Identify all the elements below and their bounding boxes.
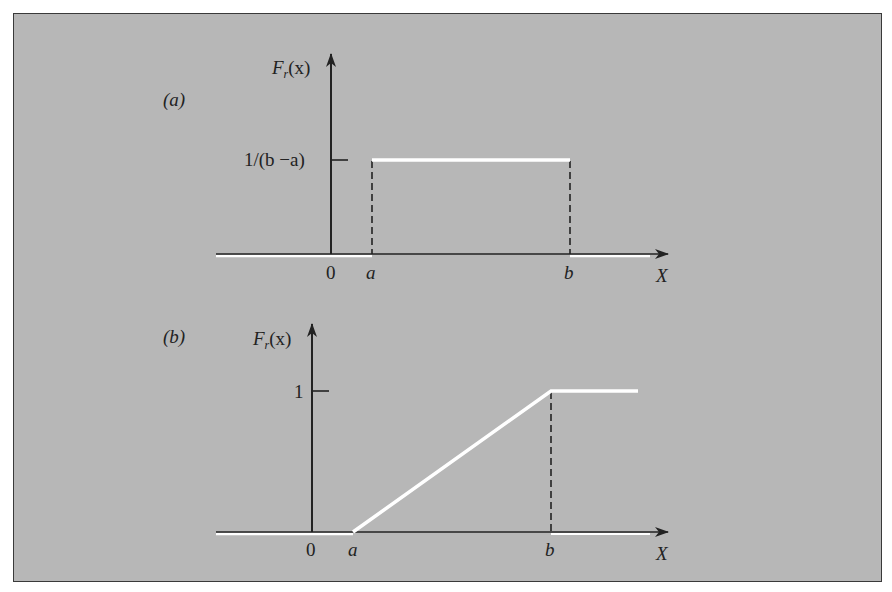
panel-label-b: (b) bbox=[163, 326, 185, 348]
cdf-curve-b bbox=[353, 391, 638, 532]
x-axis-label-b: X bbox=[655, 543, 669, 564]
panel-label-a: (a) bbox=[163, 89, 185, 111]
chart-b: (b) Fr(x) 1 0 a b X bbox=[163, 324, 669, 564]
y-tick-label-a: 1/(b −a) bbox=[244, 149, 305, 171]
chart-a: (a) Fr(x) 1/(b −a) 0 a b X bbox=[163, 54, 669, 286]
x-axis-label-a: X bbox=[655, 265, 669, 286]
y-axis-label-b: Fr(x) bbox=[252, 328, 291, 352]
figure-canvas: (a) Fr(x) 1/(b −a) 0 a b X (b) Fr(x) bbox=[0, 0, 892, 592]
x-tick-b-a: b bbox=[564, 262, 574, 283]
y-axis-label-a: Fr(x) bbox=[271, 57, 310, 81]
x-tick-a-a: a bbox=[366, 262, 376, 283]
x-tick-b-b: b bbox=[545, 539, 555, 560]
x-tick-0-a: 0 bbox=[326, 262, 336, 283]
x-tick-0-b: 0 bbox=[306, 539, 316, 560]
y-tick-label-b: 1 bbox=[294, 381, 304, 402]
x-tick-a-b: a bbox=[348, 539, 358, 560]
